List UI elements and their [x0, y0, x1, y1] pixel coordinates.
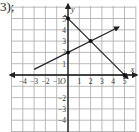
- y-tick-label: −3: [58, 105, 66, 114]
- y-tick-label: 2: [62, 48, 66, 57]
- coordinate-plane: xyO −4−3−2−11234554321−2−3−4: [0, 0, 139, 132]
- point-intersection: [89, 39, 93, 43]
- y-tick-label: 3: [62, 37, 66, 46]
- x-tick-label: 4: [111, 77, 115, 86]
- y-tick-label: −2: [58, 94, 66, 103]
- y-tick-label: 4: [62, 26, 66, 35]
- x-tick-label: −1: [53, 77, 61, 86]
- x-tick-label: 2: [89, 77, 93, 86]
- graph-line-1: [65, 15, 128, 78]
- x-tick-label: −2: [41, 77, 49, 86]
- point-y-intercept-line-1: [66, 17, 70, 21]
- x-tick-label: −3: [30, 77, 38, 86]
- x-tick-label: 5: [123, 77, 127, 86]
- lines: [34, 15, 128, 78]
- graph-line-2: [34, 27, 119, 69]
- y-tick-label: −4: [58, 116, 66, 125]
- y-axis-label: y: [70, 5, 75, 14]
- x-tick-label: −4: [19, 77, 27, 86]
- origin-label: O: [60, 77, 66, 86]
- y-tick-label: 1: [62, 60, 66, 69]
- x-tick-label: 3: [100, 77, 104, 86]
- x-axis-label: x: [130, 65, 135, 74]
- x-tick-label: 1: [77, 77, 81, 86]
- point-x-intercept-line-1: [123, 73, 127, 77]
- point-y-intercept-line-2: [66, 50, 70, 54]
